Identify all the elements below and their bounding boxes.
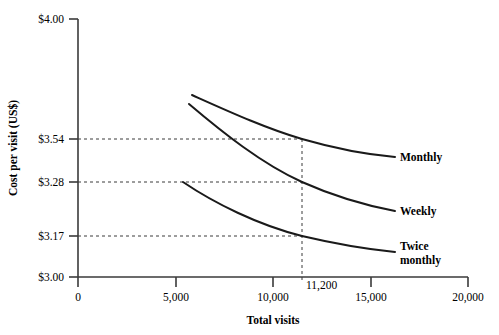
y-tick-label-328: $3.28 [38, 176, 64, 188]
series-line-twice-monthly [183, 182, 395, 252]
series-line-monthly [192, 95, 395, 157]
x-tick-label-20000: 20,000 [452, 291, 484, 304]
cost-per-visit-line-chart: $4.00 $3.54 $3.28 $3.17 $3.00 0 5,000 10… [0, 0, 499, 335]
y-tick-label-317: $3.17 [38, 230, 64, 242]
x-tick-label-5000: 5,000 [163, 291, 189, 304]
series-curves [183, 95, 395, 252]
series-label-twice-monthly-line2: monthly [400, 254, 441, 267]
x-tick-labels: 0 5,000 10,000 15,000 20,000 [75, 291, 484, 304]
series-label-twice-monthly-line1: Twice [400, 240, 429, 252]
x-tick-label-15000: 15,000 [355, 291, 387, 304]
annotation-label-11200: 11,200 [306, 279, 337, 292]
y-tick-label-300: $3.00 [38, 271, 64, 283]
y-tick-label-400: $4.00 [38, 13, 64, 25]
x-tick-label-0: 0 [75, 291, 81, 303]
y-axis-title: Cost per visit (US$) [7, 100, 20, 196]
chart-container: $4.00 $3.54 $3.28 $3.17 $3.00 0 5,000 10… [0, 0, 499, 335]
series-line-weekly [189, 104, 395, 211]
series-labels: Monthly Weekly Twice monthly [400, 151, 442, 267]
reference-lines [78, 139, 303, 281]
x-axis-title: Total visits [247, 314, 300, 326]
series-label-weekly: Weekly [400, 205, 437, 218]
y-tick-labels: $4.00 $3.54 $3.28 $3.17 $3.00 [38, 13, 64, 283]
y-tick-label-354: $3.54 [38, 133, 64, 145]
series-label-monthly: Monthly [400, 151, 442, 164]
x-tick-label-10000: 10,000 [257, 291, 289, 304]
